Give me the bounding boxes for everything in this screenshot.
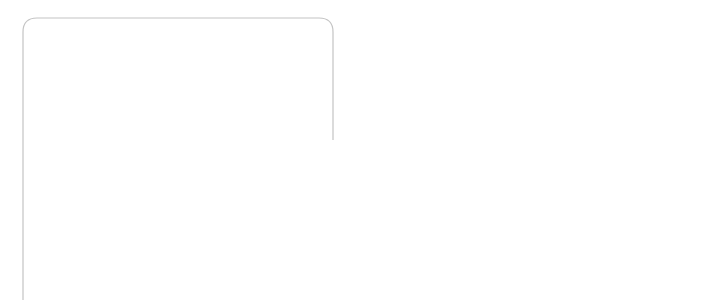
figure-bg bbox=[23, 18, 334, 154]
frame-border bbox=[24, 18, 335, 155]
panel-border bbox=[23, 18, 334, 154]
eye-diagram bbox=[0, 0, 722, 300]
page-frame bbox=[24, 19, 335, 155]
figure-border bbox=[23, 18, 333, 300]
visible-frame bbox=[23, 18, 334, 154]
figure-panel bbox=[24, 19, 335, 155]
outer-border bbox=[23, 18, 334, 154]
